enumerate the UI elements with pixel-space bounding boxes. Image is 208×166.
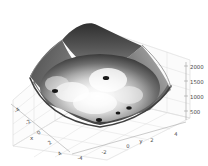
minimum-marker-2 xyxy=(103,76,109,80)
minimum-marker-5 xyxy=(116,111,121,114)
surface-plot-3d: 2000 1500 1000 500 -4 -2 0 2 4 x -4 -2 0… xyxy=(0,0,208,166)
y-tick-label-2: 2 xyxy=(150,137,153,143)
surface-bump-d xyxy=(115,86,143,104)
minimum-marker-4 xyxy=(96,118,102,122)
z-tick-label-1000: 1000 xyxy=(190,94,204,100)
y-tick-label-0: 0 xyxy=(126,143,129,149)
minimum-marker-3 xyxy=(126,106,132,110)
y-tick-label-4: 4 xyxy=(174,131,178,137)
z-tick-label-1500: 1500 xyxy=(190,79,204,85)
minimum-marker-1 xyxy=(52,89,58,93)
y-tick-label--4: -4 xyxy=(77,155,83,161)
z-tick-label-500: 500 xyxy=(190,109,201,115)
y-tick-label--2: -2 xyxy=(101,149,106,155)
surface-bump-c xyxy=(73,92,117,114)
figure-canvas: 2000 1500 1000 500 -4 -2 0 2 4 x -4 -2 0… xyxy=(0,0,208,166)
z-tick-label-2000: 2000 xyxy=(190,64,204,70)
